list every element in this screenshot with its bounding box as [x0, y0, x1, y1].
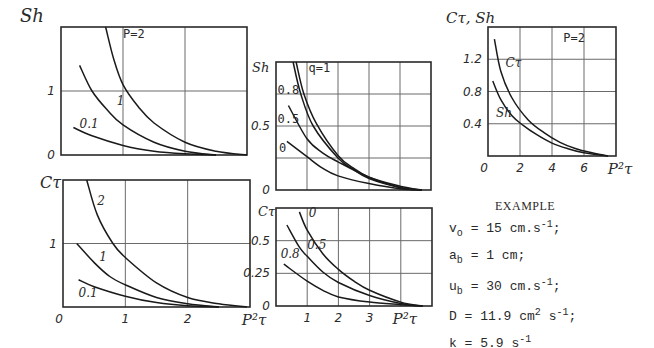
annotation-label: q=1 — [309, 61, 331, 75]
y-axis-label: Sh — [20, 5, 44, 26]
value: = 5.9 s — [457, 336, 519, 348]
y-tick-label: 0.25 — [243, 266, 270, 280]
x-tick-label: 4 — [548, 161, 556, 175]
y-tick-label: 1 — [49, 237, 57, 251]
example-line-ub: ub = 30 cm.s-1; — [449, 272, 576, 303]
series-label: 1 — [99, 250, 107, 264]
symbol: k — [449, 336, 457, 348]
series-line-01 — [73, 128, 216, 156]
y-tick-label: 0.5 — [251, 119, 270, 133]
symbol: u — [449, 279, 457, 294]
series-label: 0.5 — [278, 112, 300, 126]
example-line-d: D = 11.9 cm2 s-1; — [449, 302, 576, 328]
y-axis-label: Cτ — [258, 204, 276, 219]
symbol: v — [449, 221, 457, 236]
chart-top-left: Sh0110.1P=2 — [20, 5, 247, 162]
series-label: Sh — [496, 106, 512, 120]
chart-right: Cτ, Sh0.40.81.20246P²τCτShP=2 — [446, 9, 633, 178]
symbol: D — [449, 310, 457, 325]
y-tick-label: 1 — [47, 84, 55, 98]
tail: s — [541, 310, 557, 325]
y-tick-label: 0.4 — [463, 117, 482, 131]
x-tick-label: 1 — [303, 311, 311, 325]
x-tick-label: 1 — [122, 312, 130, 326]
y-tick-label: 0 — [262, 299, 270, 313]
series-label: 0 — [309, 206, 317, 220]
series-line-01 — [79, 280, 219, 307]
series-label: 0.8 — [281, 247, 300, 261]
x-axis-label: P²τ — [607, 160, 633, 178]
y-tick-label: 0 — [47, 148, 55, 162]
superscript: -1 — [541, 277, 553, 288]
x-tick-label: 2 — [184, 312, 192, 326]
superscript: -1 — [556, 307, 568, 318]
series-label: 0.5 — [307, 238, 326, 252]
series-label: 0.1 — [80, 117, 99, 131]
y-axis-label: Sh — [252, 60, 269, 75]
tail: ; — [553, 221, 561, 236]
series-label: Cτ — [506, 56, 522, 70]
series-line-05 — [288, 106, 421, 191]
x-tick-label: 6 — [580, 161, 588, 175]
value: = 11.9 cm — [457, 310, 535, 325]
series-label: 1 — [117, 94, 125, 108]
example-line-ab: ab = 1 cm; — [449, 245, 576, 272]
example-title: EXAMPLE — [495, 198, 622, 214]
example-line-k: k = 5.9 s-1 — [449, 329, 576, 348]
y-axis-label: Cτ, Sh — [446, 9, 495, 27]
y-tick-label: 1.2 — [463, 52, 482, 66]
series-line-1 — [77, 244, 219, 308]
x-axis-label: P²τ — [241, 311, 267, 329]
series-line-1 — [80, 65, 216, 155]
x-tick-label: 3 — [366, 311, 374, 325]
y-tick-label: 0 — [262, 183, 270, 197]
series-line-08 — [284, 264, 423, 306]
superscript: -1 — [519, 334, 531, 345]
x-tick-label: 2 — [516, 161, 524, 175]
x-tick-label: 2 — [335, 311, 343, 325]
tail: ; — [553, 279, 561, 294]
x-axis-label: P²τ — [392, 310, 418, 328]
series-label: 0 — [279, 141, 286, 155]
chart-middle-bottom: Cτ00.250.5123P²τ00.50.8 — [243, 204, 432, 328]
chart-bottom-left: Cτ1012P²τ210.1 — [40, 173, 267, 329]
series-label: 2 — [96, 194, 105, 208]
superscript: -1 — [541, 219, 553, 230]
series-label: 0.8 — [278, 83, 300, 97]
annotation-label: P=2 — [123, 27, 145, 41]
y-axis-label: Cτ — [40, 173, 62, 192]
symbol: a — [449, 248, 457, 263]
y-tick-label: 0.8 — [463, 85, 482, 99]
y-tick-label: 0.5 — [251, 234, 270, 248]
value: = 15 cm.s — [463, 221, 541, 236]
tail: ; — [568, 310, 576, 325]
x-tick-label: 0 — [480, 161, 488, 175]
chart-middle-top: Sh00.50.80.50q=1 — [251, 60, 431, 197]
series-label: 0.1 — [79, 286, 98, 300]
value: = 30 cm.s — [463, 279, 541, 294]
annotation-label: P=2 — [563, 31, 585, 45]
example-block: EXAMPLE vo = 15 cm.s-1; ab = 1 cm; ub = … — [449, 198, 576, 348]
value: = 1 cm; — [463, 248, 525, 263]
x-tick-label: 0 — [55, 312, 63, 326]
example-line-v0: vo = 15 cm.s-1; — [449, 214, 576, 245]
